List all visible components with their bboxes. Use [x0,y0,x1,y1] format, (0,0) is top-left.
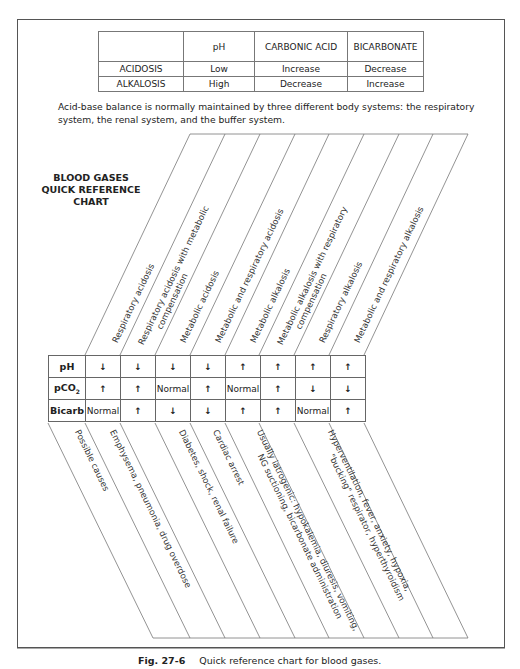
label-subscript: 2 [76,388,80,395]
grid-cell: ↓ [121,356,156,378]
grid-row-bicarb: Bicarb Normal ↑ ↓ ↓ ↑ ↑ Normal ↑ [49,400,366,422]
grid-cell: ↓ [191,356,226,378]
grid-cell: ↑ [121,378,156,400]
grid-cell: ↑ [226,356,261,378]
figure-number: Fig. 27-6 [138,655,185,666]
grid-cell: ↑ [331,356,366,378]
row-label-pco2: pCO2 [49,378,86,400]
grid-cell: Normal [226,378,261,400]
grid-cell: Normal [156,378,191,400]
grid-cell: ↑ [261,378,296,400]
blood-gas-grid: pH ↓ ↓ ↓ ↓ ↑ ↑ ↑ ↑ pCO2 ↑ ↑ Normal ↑ Nor… [48,355,366,422]
grid-cell: ↓ [156,356,191,378]
grid-cell: ↑ [261,356,296,378]
row-label-bicarb: Bicarb [49,400,86,422]
grid-cell: ↑ [121,400,156,422]
grid-row-pco2: pCO2 ↑ ↑ Normal ↑ Normal ↑ ↓ ↓ [49,378,366,400]
grid-cell: Normal [296,400,331,422]
grid-cell: ↓ [191,400,226,422]
grid-cell: Normal [86,400,121,422]
row-label-ph: pH [49,356,86,378]
grid-cell: ↑ [226,400,261,422]
figure-caption: Fig. 27-6Quick reference chart for blood… [138,655,381,666]
caption-text: Quick reference chart for blood gases. [199,655,381,666]
grid-cell: ↑ [191,378,226,400]
grid-cell: ↓ [156,400,191,422]
grid-cell: ↑ [86,378,121,400]
label-text: pCO [54,382,76,393]
grid-cell: ↓ [296,378,331,400]
grid-cell: ↓ [86,356,121,378]
grid-cell: ↓ [331,378,366,400]
grid-cell: ↑ [331,400,366,422]
grid-cell: ↑ [296,356,331,378]
grid-row-ph: pH ↓ ↓ ↓ ↓ ↑ ↑ ↑ ↑ [49,356,366,378]
grid-cell: ↑ [261,400,296,422]
